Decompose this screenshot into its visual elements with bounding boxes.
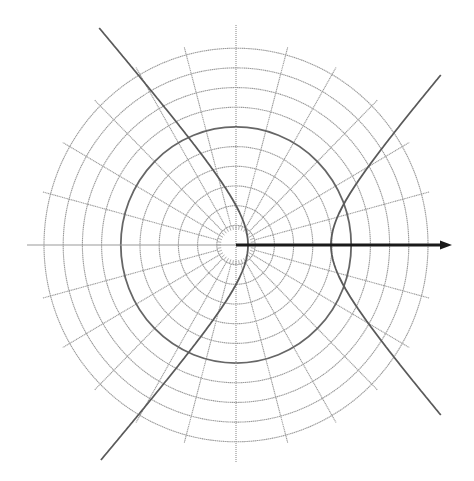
tick-mark	[239, 226, 240, 230]
tick-mark	[220, 235, 223, 237]
tick-mark	[250, 238, 254, 239]
tick-mark	[224, 257, 227, 260]
tick-mark	[250, 250, 254, 251]
tick-mark	[233, 260, 234, 264]
polar-diagram	[0, 0, 474, 481]
tick-mark	[218, 238, 222, 239]
tick-mark	[249, 235, 252, 237]
tick-mark	[230, 259, 231, 263]
tick-mark	[241, 227, 242, 231]
diagram-canvas	[0, 0, 474, 481]
tick-mark	[227, 228, 229, 232]
tick-mark	[251, 242, 255, 243]
tick-mark	[217, 242, 221, 243]
vector-arrow	[236, 241, 452, 250]
tick-mark	[239, 260, 240, 264]
tick-mark	[224, 230, 227, 233]
axes	[27, 25, 236, 463]
radial-spoke	[63, 143, 220, 236]
tick-mark	[221, 232, 224, 235]
arrowhead-icon	[440, 241, 452, 250]
tick-mark	[233, 226, 234, 230]
radial-spoke	[246, 262, 337, 423]
tick-mark	[241, 259, 242, 263]
tick-mark	[221, 255, 224, 258]
tick-mark	[218, 250, 222, 251]
tick-mark	[230, 227, 231, 231]
tick-mark	[220, 253, 223, 255]
tick-mark	[227, 258, 229, 262]
tick-mark	[217, 248, 221, 249]
tick-mark	[251, 248, 255, 249]
tick-mark	[249, 253, 252, 255]
